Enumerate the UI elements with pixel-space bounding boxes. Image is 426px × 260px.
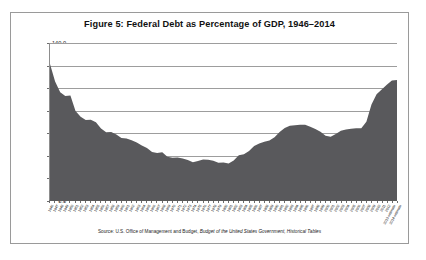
chart-title: Figure 5: Federal Debt as Percentage of … bbox=[11, 19, 408, 29]
figure-frame: Figure 5: Federal Debt as Percentage of … bbox=[10, 12, 409, 244]
x-axis-tick-mark bbox=[274, 201, 275, 203]
x-axis-tick-mark bbox=[269, 201, 270, 203]
x-axis-tick-mark bbox=[141, 201, 142, 203]
x-axis-tick-mark bbox=[223, 201, 224, 203]
x-axis-tick-mark bbox=[100, 201, 101, 203]
source-title: Budget of the United States Government, … bbox=[200, 229, 321, 234]
area-path bbox=[50, 64, 397, 200]
x-axis-tick-mark bbox=[228, 201, 229, 203]
x-axis-tick-mark bbox=[54, 201, 55, 203]
x-axis-tick-mark bbox=[187, 201, 188, 203]
x-axis-tick-mark bbox=[320, 201, 321, 203]
x-axis-tick-mark bbox=[59, 201, 60, 203]
x-axis-tick-mark bbox=[177, 201, 178, 203]
x-axis-tick-mark bbox=[356, 201, 357, 203]
x-axis-tick-mark bbox=[264, 201, 265, 203]
debt-area-series bbox=[50, 43, 397, 200]
source-note: Source: U.S. Office of Management and Bu… bbox=[11, 229, 408, 234]
x-axis-tick-mark bbox=[361, 201, 362, 203]
x-axis-tick-mark bbox=[351, 201, 352, 203]
x-axis-tick-mark bbox=[49, 201, 50, 203]
x-axis: 1946194719481949195019511952195319541955… bbox=[49, 201, 397, 241]
x-axis-tick-mark bbox=[397, 201, 398, 203]
x-axis-tick-mark bbox=[192, 201, 193, 203]
plot-area bbox=[49, 43, 397, 201]
x-axis-tick-mark bbox=[279, 201, 280, 203]
x-axis-tick-mark bbox=[310, 201, 311, 203]
x-axis-tick-mark bbox=[366, 201, 367, 203]
x-axis-tick-mark bbox=[315, 201, 316, 203]
source-prefix: Source: U.S. Office of Management and Bu… bbox=[98, 229, 200, 234]
x-axis-tick-mark bbox=[233, 201, 234, 203]
x-axis-tick-mark bbox=[95, 201, 96, 203]
x-axis-tick-mark bbox=[182, 201, 183, 203]
x-axis-tick-mark bbox=[136, 201, 137, 203]
plot-inner bbox=[49, 43, 397, 201]
x-axis-tick-mark bbox=[90, 201, 91, 203]
x-axis-tick-mark bbox=[146, 201, 147, 203]
x-axis-tick-mark bbox=[105, 201, 106, 203]
